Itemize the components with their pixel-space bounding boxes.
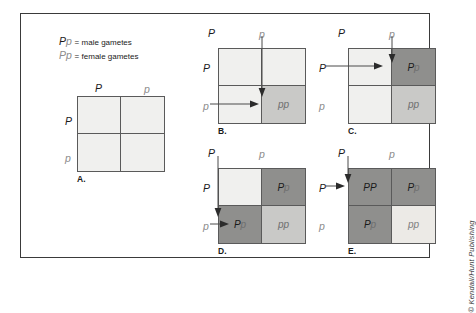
panel-D-genotype-top-right: Pp [277,182,289,193]
panel-B-row-header-1: p [203,100,209,112]
panel-E-genotype-top-right: Pp [407,182,419,193]
panel-B-row-header-0: P [203,62,210,74]
punnett-panel-D: P p P p Pp Pp pp D. [176,134,306,259]
figure-frame: Pp = male gametes Pp = female gametes P … [20,13,430,258]
panel-D-col-header-1: p [259,148,265,160]
panel-A-cell-bottom-left [78,134,121,171]
panel-E-genotype-bottom-right: pp [408,219,419,230]
panel-E-row-header-0: P [319,182,326,194]
panel-D-genotype-bottom-right: pp [278,219,289,230]
panel-C-cell-top-right: Pp [392,49,435,86]
punnett-panel-B: P p P p pp B. [176,14,306,134]
panel-B-arrow-column-p-down [256,36,268,100]
panel-E-arrow-row-P-right [326,180,348,192]
panel-D-grid: Pp Pp pp [218,168,306,244]
panel-A-letter: A. [77,174,86,184]
panel-A-grid [77,96,165,172]
panel-E-cell-bottom-left: Pp [349,206,392,243]
panel-C-genotype-top-right: Pp [407,62,419,73]
panel-E-col-header-1: p [389,148,395,160]
panel-B-col-header-0: P [208,27,215,39]
panel-E-letter: E. [348,246,356,256]
panel-C-col-header-0: P [338,27,345,39]
panel-E-genotype-top-left: PP [363,182,376,193]
panel-A-row-header-0: P [65,115,72,127]
panel-A-cell-top-right [121,97,164,134]
panel-C-cell-bottom-left [349,86,392,123]
panel-D-arrow-column-P-down [212,156,224,220]
panel-E-row-header-1: p [319,220,325,232]
panel-C-arrow-row-P-right [326,60,386,72]
punnett-panel-C: P p P p Pp pp C. [306,14,436,134]
panel-B-cell-bottom-right: pp [262,86,305,123]
copyright-credit: © Kendall/Hunt Publishing [467,220,476,312]
panel-D-letter: D. [218,246,227,256]
panel-A-col-header-1: p [144,83,150,95]
panel-A-col-header-0: P [95,82,102,94]
panel-B-arrow-row-p-right [210,98,262,110]
panel-C-cell-bottom-right: pp [392,86,435,123]
panel-B-genotype-bottom-right: pp [278,99,289,110]
panel-B-cell-top-right [262,49,305,86]
panel-A-cell-bottom-right [121,134,164,171]
panel-D-genotype-bottom-left: Pp [234,219,246,230]
panel-D-cell-bottom-right: pp [262,206,305,243]
panel-E-cell-bottom-right: pp [392,206,435,243]
panel-D-row-header-1: p [203,220,209,232]
panel-D-cell-top-right: Pp [262,169,305,206]
punnett-panel-A: P p P p A. [21,14,201,259]
panel-E-cell-top-left: PP [349,169,392,206]
panel-D-row-header-0: P [203,182,210,194]
panel-A-cell-top-left [78,97,121,134]
panel-C-row-header-0: P [319,62,326,74]
panel-D-arrow-row-p-right [210,218,232,230]
panel-C-genotype-bottom-right: pp [408,99,419,110]
panel-C-row-header-1: p [319,100,325,112]
panel-E-genotype-bottom-left: Pp [364,219,376,230]
panel-D-cell-top-left [219,169,262,206]
panel-C-arrow-column-p-down [386,36,398,66]
panel-A-row-header-1: p [65,152,71,164]
panel-E-cell-top-right: Pp [392,169,435,206]
panel-E-grid: PP Pp Pp pp [348,168,436,244]
punnett-panel-E: P p P p PP Pp Pp pp E. [306,134,436,259]
